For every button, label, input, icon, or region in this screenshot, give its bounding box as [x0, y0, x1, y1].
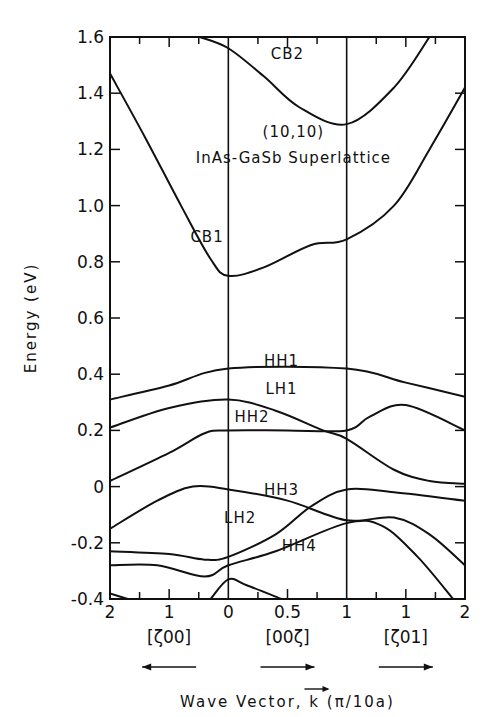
- x-tick-label: 0: [223, 602, 234, 622]
- arrow-left-icon: [142, 664, 151, 671]
- plot-border: [110, 37, 465, 599]
- band-label-hh1: HH1: [264, 352, 299, 370]
- y-tick-label: 0.4: [77, 364, 104, 384]
- band-curve-cb2: [200, 37, 430, 125]
- x-tick-label: 2: [460, 602, 471, 622]
- x-tick-label: 1: [341, 602, 352, 622]
- chart-title-line1: (10,10): [263, 123, 325, 141]
- x-axis-title: Wave Vector, k (π/10a): [180, 693, 395, 711]
- arrow-right-icon: [306, 664, 315, 671]
- band-labels: CB2CB1HH1LH1HH2HH3LH2HH4: [190, 45, 317, 555]
- y-tick-label: 0.8: [77, 252, 104, 272]
- band-curve-lh1: [110, 399, 465, 483]
- direction-label: [ζ00]: [147, 627, 191, 647]
- y-tick-label: 1.6: [77, 27, 104, 47]
- x-tick-label: 0.5: [274, 602, 301, 622]
- band-curve-cb1: [110, 74, 465, 277]
- direction-label: [00ζ]: [265, 627, 309, 647]
- x-tick-label: 2: [105, 602, 116, 622]
- x-tick-label: 1: [400, 602, 411, 622]
- y-tick-label: 0: [93, 477, 104, 497]
- band-label-hh2: HH2: [234, 408, 269, 426]
- y-tick-label: 1.0: [77, 196, 104, 216]
- y-tick-label: -0.2: [71, 533, 104, 553]
- direction-label: [ζ01]: [384, 627, 428, 647]
- x-axis: 2100.5112[ζ00][00ζ][ζ01]: [105, 602, 471, 671]
- band-label-hh3: HH3: [264, 481, 299, 499]
- band-label-hh4: HH4: [282, 537, 317, 555]
- y-axis-title: Energy (eV): [22, 263, 40, 373]
- chart-title-line2: InAs-GaSb Superlattice: [196, 149, 391, 167]
- band-curve-hh4: [110, 521, 453, 599]
- band-label-cb1: CB1: [190, 228, 223, 246]
- band-curves: [110, 37, 465, 599]
- y-tick-label: 0.6: [77, 308, 104, 328]
- x-tick-label: 1: [164, 602, 175, 622]
- band-label-lh1: LH1: [265, 380, 297, 398]
- band-label-lh2: LH2: [224, 509, 256, 527]
- band-structure-chart: CB2CB1HH1LH1HH2HH3LH2HH4 -0.4-0.200.20.4…: [0, 0, 492, 717]
- plot-frame: [110, 37, 465, 599]
- y-tick-label: 1.2: [77, 139, 104, 159]
- y-tick-label: -0.4: [71, 589, 104, 609]
- y-tick-label: 0.2: [77, 420, 104, 440]
- band-curve-unlabeled-low: [211, 579, 282, 599]
- arrow-right-icon: [424, 664, 433, 671]
- band-label-cb2: CB2: [271, 45, 304, 63]
- y-tick-label: 1.4: [77, 83, 104, 103]
